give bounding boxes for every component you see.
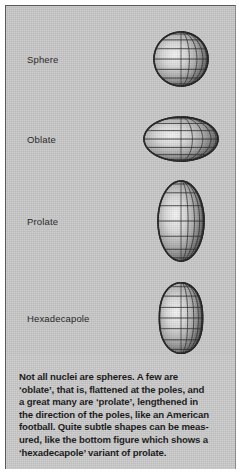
- shape-oblate: [144, 117, 218, 161]
- shape-label-oblate: Oblate: [27, 134, 56, 145]
- caption-line: the direction of the poles, like an Amer…: [19, 409, 222, 422]
- shapes-area: Sphere Oblate Prolate Hexadecapole: [6, 6, 236, 354]
- shape-label-prolate: Prolate: [27, 216, 58, 227]
- shape-label-hexadecapole: Hexadecapole: [27, 313, 90, 324]
- figure-caption: Not all nuclei are spheres. A few are‘ob…: [19, 371, 222, 459]
- shape-hexadecapole: [159, 283, 202, 354]
- caption-line: ured, like the bottom figure which shows…: [19, 434, 222, 447]
- caption-line: football. Quite subtle shapes can be mea…: [19, 421, 222, 434]
- caption-line: ‘oblate’, that is, flattened at the pole…: [19, 384, 222, 397]
- caption-line: Not all nuclei are spheres. A few are: [19, 371, 222, 384]
- shape-sphere: [154, 32, 208, 86]
- caption-line: a great many are ‘prolate’, lengthened i…: [19, 396, 222, 409]
- caption-line: ‘hexadecapole’ variant of prolate.: [19, 447, 222, 460]
- figure-panel: Sphere Oblate Prolate Hexadecapole Not a…: [5, 5, 236, 469]
- caption-area: Not all nuclei are spheres. A few are‘ob…: [6, 355, 236, 469]
- shape-label-sphere: Sphere: [27, 54, 59, 65]
- shape-prolate: [158, 181, 204, 261]
